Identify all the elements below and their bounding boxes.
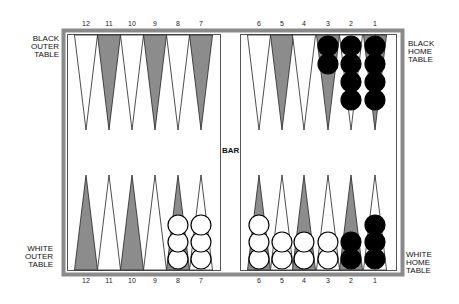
label-line: TABLE bbox=[408, 56, 434, 64]
black-home-table-label: BLACK HOME TABLE bbox=[408, 40, 434, 64]
black-checker[interactable] bbox=[341, 54, 361, 74]
point-number-top: 1 bbox=[367, 20, 383, 27]
point-number-bottom: 2 bbox=[343, 277, 359, 284]
point-number-bottom: 1 bbox=[367, 277, 383, 284]
label-line: TABLE bbox=[26, 51, 59, 59]
point-number-bottom: 10 bbox=[124, 277, 140, 284]
white-checker[interactable] bbox=[249, 215, 269, 235]
point-number-top: 4 bbox=[296, 20, 312, 27]
black-checker[interactable] bbox=[365, 90, 385, 110]
label-line: TABLE bbox=[406, 267, 432, 275]
white-checker[interactable] bbox=[168, 215, 188, 235]
black-checker[interactable] bbox=[341, 90, 361, 110]
black-outer-table-label: BLACK OUTER TABLE bbox=[26, 35, 59, 59]
black-checker[interactable] bbox=[365, 72, 385, 92]
black-checker[interactable] bbox=[341, 232, 361, 252]
bar-label: BAR bbox=[222, 146, 239, 155]
point-number-top: 3 bbox=[320, 20, 336, 27]
point-number-top: 5 bbox=[274, 20, 290, 27]
black-checker[interactable] bbox=[318, 54, 338, 74]
black-checker[interactable] bbox=[365, 215, 385, 235]
point-number-bottom: 7 bbox=[193, 277, 209, 284]
point-number-top: 11 bbox=[101, 20, 117, 27]
white-outer-table-label: WHITE OUTER TABLE bbox=[20, 245, 53, 269]
point-number-top: 12 bbox=[78, 20, 94, 27]
black-checker[interactable] bbox=[318, 36, 338, 56]
label-line: TABLE bbox=[20, 261, 53, 269]
point-number-top: 7 bbox=[193, 20, 209, 27]
white-checker[interactable] bbox=[191, 215, 211, 235]
point-number-bottom: 4 bbox=[296, 277, 312, 284]
point-number-bottom: 11 bbox=[101, 277, 117, 284]
point-number-bottom: 5 bbox=[274, 277, 290, 284]
black-checker[interactable] bbox=[341, 36, 361, 56]
white-checker[interactable] bbox=[318, 232, 338, 252]
black-checker[interactable] bbox=[365, 54, 385, 74]
white-checker[interactable] bbox=[272, 232, 292, 252]
point-number-bottom: 12 bbox=[78, 277, 94, 284]
point-number-bottom: 8 bbox=[170, 277, 186, 284]
point-number-bottom: 6 bbox=[251, 277, 267, 284]
point-number-top: 8 bbox=[170, 20, 186, 27]
black-checker[interactable] bbox=[365, 36, 385, 56]
white-checker[interactable] bbox=[294, 232, 314, 252]
point-number-top: 9 bbox=[147, 20, 163, 27]
black-checker[interactable] bbox=[341, 72, 361, 92]
point-number-bottom: 9 bbox=[147, 277, 163, 284]
white-home-table-label: WHITE HOME TABLE bbox=[406, 251, 432, 275]
point-number-top: 2 bbox=[343, 20, 359, 27]
point-number-top: 10 bbox=[124, 20, 140, 27]
point-number-top: 6 bbox=[251, 20, 267, 27]
point-number-bottom: 3 bbox=[320, 277, 336, 284]
